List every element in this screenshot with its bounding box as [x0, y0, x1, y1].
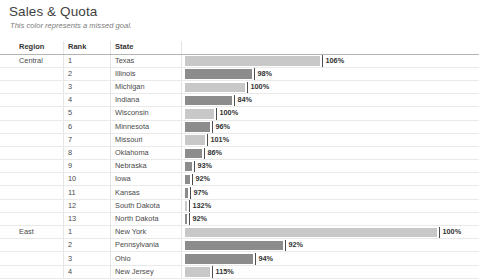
column-divider [181, 186, 182, 198]
bar-value-label: 115% [216, 268, 234, 275]
bar-cell: 93% [185, 160, 479, 172]
quota-target-tick [192, 174, 194, 186]
table-row[interactable]: 9Nebraska93% [0, 160, 479, 173]
cell-rank: 9 [68, 162, 72, 169]
cell-state: Wisconsin [115, 110, 149, 117]
column-divider [110, 41, 111, 54]
cell-rank: 4 [68, 268, 72, 275]
quota-bar[interactable] [185, 267, 210, 277]
table-row[interactable]: 6Minnesota96% [0, 121, 479, 134]
cell-state: New York [115, 228, 146, 235]
quota-bar[interactable] [185, 254, 253, 264]
cell-region: Central [19, 57, 43, 64]
column-header-rank: Rank [68, 44, 86, 52]
quota-bar[interactable] [185, 56, 320, 66]
column-divider [181, 226, 182, 238]
table-body: Central1Texas106%2Illinois98%3Michigan10… [0, 55, 479, 279]
cell-state: Iowa [115, 176, 131, 183]
quota-bar[interactable] [185, 175, 190, 185]
column-divider [110, 107, 111, 119]
bar-value-label: 92% [193, 215, 208, 222]
bar-cell: 92% [185, 239, 479, 251]
table-row[interactable]: 4New Jersey115% [0, 266, 479, 279]
column-divider [110, 68, 111, 80]
quota-target-tick [194, 161, 196, 173]
cell-state: Nebraska [115, 162, 147, 169]
cell-rank: 1 [68, 57, 72, 64]
quota-bar[interactable] [185, 135, 205, 145]
bar-cell: 132% [185, 200, 479, 212]
column-divider [110, 213, 111, 225]
quota-bar[interactable] [185, 201, 187, 211]
column-divider [110, 239, 111, 251]
column-divider [181, 252, 182, 264]
cell-state: Texas [115, 57, 134, 64]
bar-value-label: 101% [211, 136, 230, 143]
table-row[interactable]: 12South Dakota132% [0, 200, 479, 213]
cell-state: Pennsylvania [115, 242, 159, 249]
quota-bar[interactable] [185, 109, 214, 119]
table-row[interactable]: 5Wisconsin100% [0, 107, 479, 120]
table-row[interactable]: 3Ohio94% [0, 252, 479, 265]
quota-target-tick [207, 134, 209, 146]
sales-quota-table: Region Rank State Central1Texas106%2Illi… [0, 41, 479, 279]
column-divider [63, 68, 64, 80]
bar-value-label: 100% [220, 110, 239, 117]
column-divider [110, 200, 111, 212]
table-row[interactable]: 11Kansas97% [0, 186, 479, 199]
quota-bar[interactable] [185, 214, 187, 224]
column-divider [63, 55, 64, 67]
column-divider [181, 121, 182, 133]
bar-value-label: 96% [216, 123, 231, 130]
table-row[interactable]: 3Michigan100% [0, 81, 479, 94]
column-divider [63, 121, 64, 133]
quota-bar[interactable] [185, 69, 252, 79]
cell-state: Illinois [115, 70, 136, 77]
bar-cell: 100% [185, 107, 479, 119]
bar-value-label: 132% [193, 202, 212, 209]
table-row[interactable]: 4Indiana84% [0, 94, 479, 107]
quota-target-tick [212, 266, 214, 278]
cell-rank: 3 [68, 83, 72, 90]
column-divider [181, 239, 182, 251]
quota-bar[interactable] [185, 83, 245, 93]
column-header-region: Region [19, 44, 44, 52]
table-row[interactable]: 2Pennsylvania92% [0, 239, 479, 252]
quota-bar[interactable] [185, 162, 192, 172]
quota-bar[interactable] [185, 241, 283, 251]
cell-rank: 8 [68, 149, 72, 156]
bar-cell: 92% [185, 213, 479, 225]
table-row[interactable]: 2Illinois98% [0, 68, 479, 81]
quota-bar[interactable] [185, 122, 210, 132]
bar-cell: 106% [185, 55, 479, 67]
table-row[interactable]: 13North Dakota92% [0, 213, 479, 226]
quota-bar[interactable] [185, 96, 232, 106]
cell-state: New Jersey [115, 268, 154, 275]
quota-bar[interactable] [185, 228, 437, 238]
bar-cell: 96% [185, 121, 479, 133]
column-divider [63, 239, 64, 251]
cell-state: North Dakota [115, 215, 159, 222]
table-row[interactable]: 7Missouri101% [0, 134, 479, 147]
column-divider [63, 213, 64, 225]
column-header-state: State [115, 44, 133, 52]
quota-target-tick [247, 82, 249, 94]
cell-rank: 10 [68, 176, 76, 183]
column-divider [110, 160, 111, 172]
quota-bar[interactable] [185, 188, 188, 198]
table-row[interactable]: 8Oklahoma86% [0, 147, 479, 160]
table-row[interactable]: 10Iowa92% [0, 173, 479, 186]
column-divider [110, 134, 111, 146]
quota-bar[interactable] [185, 149, 202, 159]
bar-value-label: 86% [208, 149, 223, 156]
column-divider [63, 226, 64, 238]
bar-cell: 101% [185, 134, 479, 146]
table-row[interactable]: Central1Texas106% [0, 55, 479, 68]
table-row[interactable]: East1New York100% [0, 226, 479, 239]
column-divider [110, 81, 111, 93]
column-divider [63, 252, 64, 264]
column-divider [181, 41, 182, 54]
cell-rank: 12 [68, 202, 76, 209]
cell-state: Indiana [115, 97, 139, 104]
